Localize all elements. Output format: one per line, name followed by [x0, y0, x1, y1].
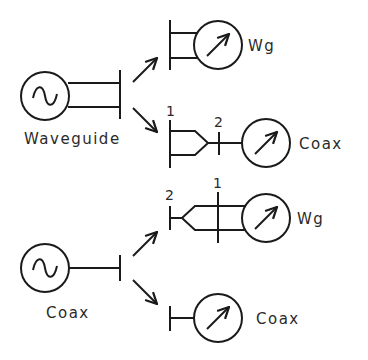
port-label-1: 1	[213, 175, 222, 191]
source-label-waveguide: Waveguide	[24, 130, 121, 148]
adapter-taper	[170, 131, 208, 155]
source-label-coax: Coax	[46, 304, 90, 322]
adapter-taper-bottom	[182, 218, 248, 230]
wg-detector-branch: Wg	[170, 20, 275, 70]
arrow-up-icon	[133, 232, 157, 256]
sine-wave-icon	[33, 87, 57, 105]
coax-source: Coax	[21, 244, 120, 322]
detector-label-wg: Wg	[297, 210, 324, 228]
top-group: Waveguide Wg 1 2 Coax	[21, 20, 343, 168]
bottom-group: Coax 2 1 Wg Coax	[21, 175, 324, 342]
coax-detector-branch: 1 2 Coax	[166, 103, 343, 168]
port-label-1: 1	[166, 103, 175, 119]
detector-label-wg: Wg	[248, 37, 275, 55]
detector-label-coax: Coax	[256, 310, 300, 328]
coax-detector-branch: Coax	[170, 294, 300, 342]
arrow-down-icon	[133, 280, 157, 304]
port-label-2: 2	[214, 114, 223, 130]
arrow-up-icon	[133, 58, 157, 82]
waveguide-source: Waveguide	[21, 70, 121, 148]
detector-label-coax: Coax	[299, 135, 343, 153]
sine-wave-icon	[33, 259, 57, 277]
port-label-2: 2	[165, 187, 174, 203]
diagram-canvas: Waveguide Wg 1 2 Coax	[0, 0, 368, 360]
adapter-taper-top	[182, 206, 248, 218]
wg-detector-branch: 2 1 Wg	[165, 175, 324, 243]
arrow-down-icon	[133, 108, 157, 132]
